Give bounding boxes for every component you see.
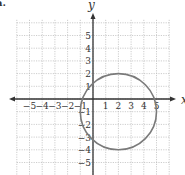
y-tick-label: 5 (85, 31, 91, 41)
x-tick-label: −4 (36, 101, 50, 111)
x-tick-label: −2 (61, 101, 74, 111)
y-tick-label: 4 (85, 44, 91, 54)
y-tick-label: 2 (85, 69, 91, 79)
x-tick-label: 3 (128, 101, 134, 111)
x-tick-label: 4 (141, 101, 147, 111)
y-axis-title: y (87, 0, 95, 12)
x-tick-label: −3 (48, 101, 62, 111)
x-tick-label: −5 (23, 101, 37, 111)
x-tick-label: 2 (116, 101, 122, 111)
coordinate-plane: a. −5−4−3−2−112345−5−4−3−2−112345 y x (0, 0, 185, 175)
x-tick-label: 1 (103, 101, 109, 111)
y-tick-label: 3 (85, 56, 91, 66)
x-axis-title: x (181, 93, 185, 107)
y-tick-label: −3 (78, 133, 92, 143)
y-tick-label: −5 (78, 158, 92, 168)
panel-label: a. (0, 0, 6, 8)
x-axis-right-arrow-icon (170, 97, 176, 102)
axes (9, 13, 176, 175)
y-tick-label: −4 (78, 145, 92, 155)
x-axis-left-arrow-icon (9, 97, 15, 102)
y-axis-up-arrow-icon (91, 13, 96, 19)
